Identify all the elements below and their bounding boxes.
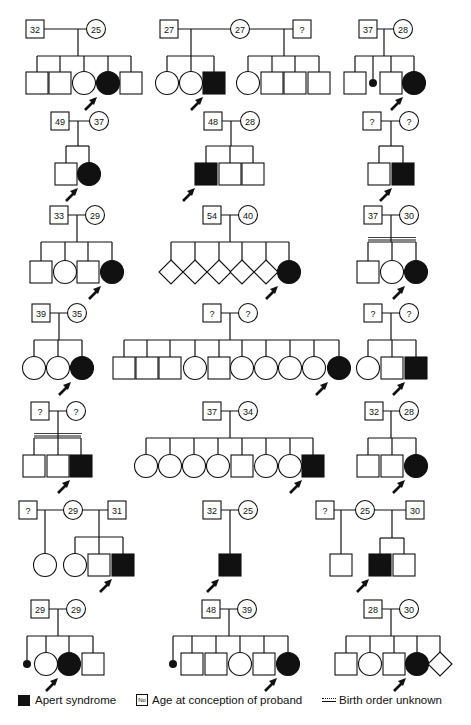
father-age-box: 37	[203, 402, 221, 420]
father-age-box: ?	[31, 402, 49, 420]
mother-age-circle: ?	[400, 304, 419, 323]
father-age-box: 32	[203, 501, 221, 519]
proband-arrow-icon	[59, 382, 71, 395]
svg-text:48: 48	[206, 605, 216, 615]
pedigree-p21: 2830	[335, 600, 452, 692]
first-father-age-box: ?	[316, 501, 334, 519]
mother-age-circle: 28	[241, 112, 260, 131]
male-square	[368, 163, 390, 185]
affected-female-circle	[101, 261, 124, 284]
proband-arrow-icon	[66, 188, 78, 201]
proband-arrow-icon	[391, 97, 403, 110]
affected-female-circle	[97, 72, 120, 95]
svg-text:37: 37	[94, 117, 104, 127]
proband-arrow-icon	[380, 188, 392, 201]
proband-arrow-icon	[46, 678, 58, 691]
pedigree-p16: ?2931	[19, 501, 134, 593]
svg-text:54: 54	[207, 211, 217, 221]
pedigree-p13: ??	[23, 402, 92, 494]
father-age-box: 28	[364, 600, 382, 618]
male-square	[26, 72, 48, 94]
mother-age-circle: 30	[400, 206, 419, 225]
female-circle	[180, 72, 203, 95]
pedigree-p12: ??	[357, 304, 428, 396]
male-square	[55, 163, 77, 185]
mother-age-circle: 28	[394, 20, 413, 39]
unknown-sex-diamond	[230, 260, 254, 284]
proband-arrow-icon	[191, 97, 203, 110]
svg-text:?: ?	[369, 117, 374, 127]
male-square	[393, 554, 415, 576]
svg-text:29: 29	[71, 605, 81, 615]
svg-text:29: 29	[35, 605, 45, 615]
pedigree-p8: 5440	[159, 206, 301, 300]
svg-text:32: 32	[369, 407, 379, 417]
svg-text:39: 39	[36, 309, 46, 319]
female-circle	[303, 357, 326, 380]
male-square	[380, 72, 402, 94]
male-square	[49, 72, 71, 94]
proband-arrow-icon	[316, 382, 328, 395]
affected-female-circle	[78, 163, 101, 186]
female-circle	[183, 455, 206, 478]
mother-age-circle: 30	[400, 600, 419, 619]
male-square	[357, 455, 379, 477]
proband-arrow-icon	[89, 286, 101, 299]
pedigree-p20: 4839	[169, 600, 300, 692]
father-age-box: 29	[31, 600, 49, 618]
svg-text:28: 28	[398, 25, 408, 35]
unknown-sex-diamond	[207, 260, 231, 284]
proband-arrow-icon	[100, 579, 112, 592]
svg-text:29: 29	[68, 506, 78, 516]
pedigree-p15: 3228	[357, 402, 428, 494]
male-square	[357, 261, 379, 283]
pedigree-p1: 3225	[26, 20, 142, 111]
male-square	[330, 554, 352, 576]
affected-female-circle	[58, 653, 81, 676]
affected-female-circle	[328, 357, 351, 380]
female-circle	[184, 357, 207, 380]
male-square	[231, 455, 253, 477]
legend-birth-order-label: Birth order unknown	[339, 694, 442, 706]
mother-age-circle: 29	[67, 600, 86, 619]
male-square	[208, 357, 230, 379]
affected-male-square	[369, 554, 391, 576]
affected-square-icon	[18, 695, 30, 706]
svg-text:48: 48	[208, 117, 218, 127]
legend-age: No Age at conception of proband	[136, 694, 302, 706]
mother-age-circle: 25	[239, 501, 258, 520]
male-square	[82, 653, 104, 675]
male-square	[253, 653, 275, 675]
unknown-sex-diamond	[428, 652, 452, 676]
unknown-sex-diamond	[159, 260, 183, 284]
mother-age-circle: 37	[90, 112, 109, 131]
pedigree-p19: 2929	[23, 600, 104, 692]
male-square	[284, 72, 306, 94]
father-age-box: 37	[359, 20, 377, 38]
unknown-sex-diamond	[254, 260, 278, 284]
svg-text:29: 29	[90, 211, 100, 221]
affected-female-circle	[403, 72, 426, 95]
female-circle	[156, 72, 179, 95]
female-circle	[231, 357, 254, 380]
pedigree-p2: 2727?	[156, 20, 331, 111]
male-square	[381, 357, 403, 379]
svg-text:39: 39	[242, 605, 252, 615]
mother-age-circle: ?	[239, 304, 258, 323]
stillbirth-dot	[369, 79, 377, 87]
pedigree-p11: ??	[113, 304, 351, 396]
male-square	[344, 72, 366, 94]
pedigree-p10: 3935	[23, 304, 94, 396]
mother-age-circle: 29	[86, 206, 105, 225]
pedigree-p4: 4937	[51, 112, 109, 202]
male-square	[261, 72, 283, 94]
father-age-box: ?	[364, 304, 382, 322]
pedigree-p18: ?2530	[316, 501, 424, 593]
svg-text:37: 37	[368, 211, 378, 221]
second-father-age-box: 31	[108, 501, 126, 519]
svg-text:28: 28	[368, 605, 378, 615]
affected-female-circle	[405, 455, 428, 478]
proband-arrow-icon	[393, 286, 405, 299]
svg-text:37: 37	[207, 407, 217, 417]
father-age-box: 32	[365, 402, 383, 420]
